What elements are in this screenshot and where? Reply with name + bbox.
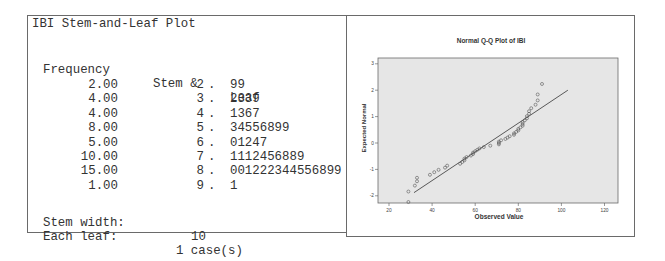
each-leaf-row: Each leaf: 1 case(s) [28,216,347,231]
stem-leaf-row: 4.004.1367 [28,107,347,122]
qq-plot-chart: Normal Q-Q Plot of IBI 20406080100120-2-… [347,16,634,236]
stem-leaf-row: 8.005.34556899 [28,121,347,136]
row-frequency: 5.00 [28,136,118,150]
stem-width-value: 10 [191,230,206,244]
stem-leaf-row: 5.006.01247 [28,136,347,151]
row-leaf: 2339 [230,92,260,106]
row-dot: . [208,150,215,164]
row-leaf: 1112456889 [230,150,304,164]
y-tick-label: 0 [371,141,374,146]
row-frequency: 2.00 [28,78,118,92]
row-leaf: 1367 [230,107,260,121]
x-tick-label: 40 [429,208,435,213]
chart-title: Normal Q-Q Plot of IBI [457,37,526,45]
row-dot: . [208,92,215,106]
y-tick-label: 1 [371,114,374,119]
row-stem: 5 [184,121,204,135]
qq-plot-panel: Normal Q-Q Plot of IBI 20406080100120-2-… [346,15,635,237]
y-tick-label: -2 [370,193,375,198]
stem-leaf-row: 1.009.1 [28,179,347,194]
header-frequency: Frequency [43,63,110,77]
row-dot: . [208,121,215,135]
y-tick-label: -1 [370,167,375,172]
stem-leaf-row: 4.003.2339 [28,92,347,107]
row-stem: 6 [184,136,204,150]
y-tick-label: 3 [371,61,374,66]
row-dot: . [208,164,215,178]
row-leaf: 1 [230,179,237,193]
each-leaf-value: 1 case(s) [176,244,243,258]
x-tick-label: 20 [386,208,392,213]
row-frequency: 4.00 [28,92,118,106]
stem-leaf-row: 10.007.1112456889 [28,150,347,165]
row-dot: . [208,136,215,150]
row-leaf: 01247 [230,136,267,150]
row-stem: 4 [184,107,204,121]
row-frequency: 15.00 [28,164,118,178]
stem-width-row: Stem width: 10 [28,202,347,217]
stem-leaf-row: 15.008.001222344556899 [28,164,347,179]
row-dot: . [208,78,215,92]
row-stem: 7 [184,150,204,164]
y-axis-label: Expected Normal [361,103,367,152]
row-stem: 9 [184,179,204,193]
row-stem: 8 [184,164,204,178]
plot-area [378,58,618,203]
row-leaf: 34556899 [230,121,290,135]
row-frequency: 10.00 [28,150,118,164]
row-leaf: 001222344556899 [230,164,342,178]
row-leaf: 99 [230,78,245,92]
row-dot: . [208,179,215,193]
x-tick-label: 100 [557,208,565,213]
stem-leaf-header: Frequency Stem & Leaf [28,49,347,64]
row-frequency: 1.00 [28,179,118,193]
row-stem: 2 [184,78,204,92]
each-leaf-label: Each leaf: [43,230,117,244]
row-stem: 3 [184,92,204,106]
stem-leaf-row: 2.002.99 [28,78,347,93]
stem-leaf-title: IBI Stem-and-Leaf Plot [32,17,196,31]
row-frequency: 8.00 [28,121,118,135]
row-frequency: 4.00 [28,107,118,121]
x-tick-label: 120 [600,208,608,213]
y-tick-label: 2 [371,88,374,93]
x-axis-label: Observed Value [475,213,524,220]
stem-leaf-panel: IBI Stem-and-Leaf Plot Frequency Stem & … [27,15,346,233]
row-dot: . [208,107,215,121]
